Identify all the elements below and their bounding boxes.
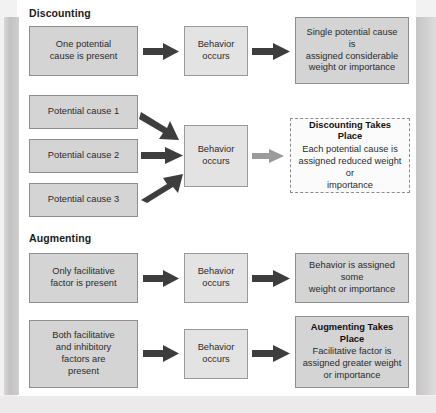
box-behavior-occurs-d1-label: Behavior occurs (192, 37, 241, 65)
box-outcome-discounting-body: Each potential cause is assigned reduced… (299, 144, 402, 190)
box-potential-cause-3-label: Potential cause 3 (42, 192, 125, 208)
box-potential-cause-2-label: Potential cause 2 (42, 148, 125, 164)
arrow-right-a2a (143, 345, 179, 362)
section-heading-discounting: Discounting (29, 7, 91, 19)
box-potential-cause-1: Potential cause 1 (29, 95, 138, 129)
figure-root: Discounting One potential cause is prese… (0, 0, 436, 413)
box-behavior-occurs-d1: Behavior occurs (184, 26, 248, 76)
box-outcome-discounting-takes-place: Discounting Takes Place Each potential c… (290, 118, 410, 193)
arrow-right-a1b (252, 270, 290, 287)
box-both-facilitative-inhibitory-label: Both facilitative and inhibitory factors… (46, 328, 121, 380)
box-outcome-discounting-text: Discounting Takes Place Each potential c… (291, 118, 409, 194)
box-behavior-occurs-d2-label: Behavior occurs (192, 142, 241, 170)
box-outcome-discounting-title: Discounting Takes Place (297, 120, 403, 144)
box-potential-cause-2: Potential cause 2 (29, 139, 138, 173)
arrow-right-a2b (252, 345, 290, 362)
arrow-right-d1a (143, 43, 179, 60)
arrow-right-d1b (252, 43, 290, 60)
box-outcome-augmenting-text: Augmenting Takes Place Facilitative fact… (296, 320, 408, 384)
box-outcome-augmenting-body: Facilitative factor is assigned greater … (303, 346, 402, 380)
arrow-diagonal-up-d2 (141, 170, 185, 202)
box-outcome-behavior-assigned-some-label: Behavior is assigned some weight or impo… (296, 258, 408, 298)
box-outcome-single-cause: Single potential cause is assigned consi… (295, 17, 409, 84)
box-behavior-occurs-a1-label: Behavior occurs (192, 264, 241, 292)
box-potential-cause-3: Potential cause 3 (29, 183, 138, 217)
box-only-facilitative-factor-label: Only facilitative factor is present (44, 264, 122, 292)
box-both-facilitative-inhibitory: Both facilitative and inhibitory factors… (29, 320, 138, 388)
box-behavior-occurs-d2: Behavior occurs (184, 125, 248, 187)
box-outcome-augmenting-title: Augmenting Takes Place (302, 322, 402, 346)
box-outcome-augmenting-takes-place: Augmenting Takes Place Facilitative fact… (295, 316, 409, 388)
box-outcome-single-cause-label: Single potential cause is assigned consi… (296, 25, 408, 77)
arrow-diagonal-down-d2 (141, 110, 185, 142)
page-bottom-band (0, 396, 436, 413)
arrow-right-d2 (141, 147, 183, 164)
arrow-right-a1a (143, 270, 179, 287)
box-outcome-behavior-assigned-some: Behavior is assigned some weight or impo… (295, 253, 409, 303)
box-potential-cause-1-label: Potential cause 1 (42, 104, 125, 120)
box-behavior-occurs-a2-label: Behavior occurs (192, 340, 241, 368)
box-one-potential-cause-label: One potential cause is present (44, 37, 124, 65)
scan-shadow-right (416, 17, 436, 395)
arrow-right-d2-outcome (252, 149, 284, 163)
box-behavior-occurs-a2: Behavior occurs (184, 329, 248, 379)
box-only-facilitative-factor: Only facilitative factor is present (29, 253, 138, 303)
box-one-potential-cause: One potential cause is present (29, 26, 138, 76)
scan-shadow-left (4, 17, 19, 395)
section-heading-augmenting: Augmenting (29, 232, 91, 244)
box-behavior-occurs-a1: Behavior occurs (184, 253, 248, 303)
